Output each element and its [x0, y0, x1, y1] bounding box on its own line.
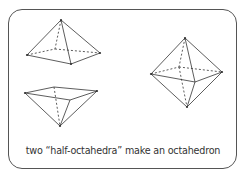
lower-half-octahedron: [24, 87, 98, 127]
caption: two “half-octahedra” make an octahedron: [0, 145, 246, 156]
upper-half-octahedron: [26, 19, 101, 65]
octahedron: [150, 37, 223, 108]
